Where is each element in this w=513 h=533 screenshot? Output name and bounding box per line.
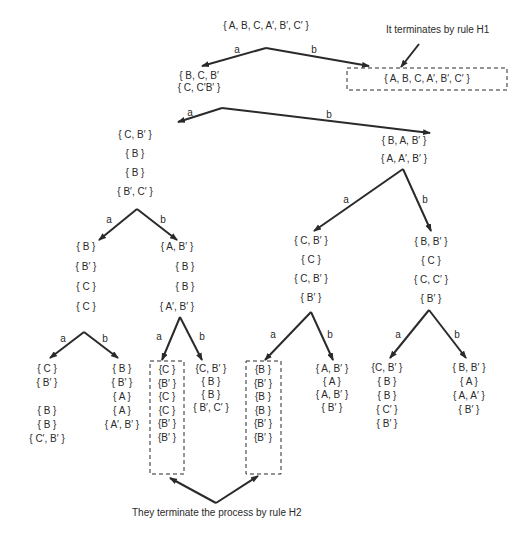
state-set: {B′ } [158,418,176,430]
node-abaa-terminal: {B } {B′ } {B } {B } {B′ } {B′ } [254,364,272,443]
state-set: { C′ } [372,404,403,416]
node-aaaa: { C } { B′ } { B } { B } { C′, B′ } [29,363,64,445]
state-set: { C, C′ } [414,274,448,286]
node-ab: { B, A, B′ } { A, A′, B′ } [381,135,427,165]
state-set: { C } [76,281,97,293]
state-set: { A, A′, B′ } [381,153,427,165]
node-aaba-terminal: {C } {B′ } {C } {C } {B′ } {B′ } [158,364,176,443]
node-aa: { C, B′ } { B } { B } { B′, C′ } [117,129,152,198]
edge-label-a: a [60,334,66,344]
edge-label-a: a [156,332,162,342]
state-set: {C, B′ } [193,363,228,375]
state-set: { C } [414,255,448,267]
state-set: { A } [316,376,348,388]
edge-label-b: b [102,334,108,344]
edge-label-b: b [199,332,205,342]
state-set: { A } [105,391,139,403]
edge-label-b: b [311,45,317,55]
edge-label-a: a [343,195,349,205]
h1-annotation: It terminates by rule H1 [386,24,489,35]
state-set: {C } [158,391,176,403]
state-set: { A′, B′ } [160,301,194,313]
node-aaa: { B } { B′ } { C } { C } [76,241,97,313]
state-set: { C, B′ } [294,273,328,285]
node-root-b-terminal: { A, B, C, A′, B′, C′ } [384,73,470,85]
node-abba: {C, B′ } { B } { B } { C′ } { B′ } [372,362,403,430]
node-abbb: { B, B′ } { A } { A, A′ } { B′ } [452,362,485,416]
state-set: {B′ } [158,378,176,390]
state-set: { A, B′ } [316,389,348,401]
state-set: { B′ } [452,404,485,416]
state-set: {B } [254,405,272,417]
state-set: {B′ } [254,432,272,444]
edge-label-a: a [395,330,401,340]
state-set: { A } [105,405,139,417]
state-set: { B } [193,376,228,388]
state-set: { C } [294,254,328,266]
state-set: { B′ } [29,377,64,389]
state-set: { C, B′ } [117,129,152,141]
edge-label-b: b [160,215,166,225]
state-set: {C, B′ } [372,362,403,374]
edge-label-a: a [234,45,240,55]
state-set: { B′ } [372,418,403,430]
state-set: { B′ } [105,377,139,389]
state-set: { C′, B′ } [29,433,64,445]
edge-label-a: a [106,215,112,225]
state-set: { B } [168,281,202,293]
state-set: {B′ } [158,432,176,444]
edge-label-b: b [454,330,460,340]
state-set: { C, B′ } [294,235,328,247]
state-set: { B } [76,241,97,253]
edge-label-b: b [327,330,333,340]
state-set: { C, C′B′ } [178,82,221,94]
state-set: { A′, B′ } [105,419,139,431]
edge-label-a: a [270,330,276,340]
state-set: { A, B′ } [160,241,194,253]
node-root: { A, B, C, A′, B′, C′ } [223,20,309,32]
state-set: {B } [254,364,272,376]
state-set: { B, C, B′ [178,70,221,82]
edge-label-b: b [422,195,428,205]
state-set: { B, B′ } [414,236,448,248]
state-set: { C } [29,363,64,375]
state-set: { B′ } [76,261,97,273]
state-set: { C } [76,301,97,313]
node-abb: { B, B′ } { C } { C, C′ } { B′ } [414,236,448,305]
state-set: { B′, C′ } [117,186,152,198]
state-set: { A, A′ } [452,390,485,402]
state-set: {B } [254,391,272,403]
state-set: {C } [158,405,176,417]
state-set: { B′ } [414,293,448,305]
state-set: { A, B′ } [316,363,348,375]
state-set: {C } [158,364,176,376]
node-aaab: { B } { B′ } { A } { A } { A′, B′ } [105,363,139,431]
state-set: { B } [29,419,64,431]
state-set: {B′ } [254,378,272,390]
node-aba: { C, B′ } { C } { C, B′ } { B′ } [294,235,328,304]
node-abab: { A, B′ } { A } { A, B′ } { B′ } [316,363,348,414]
state-set: { B } [372,376,403,388]
state-set: { B } [193,389,228,401]
state-set: { B } [117,167,152,179]
state-set: { B } [372,390,403,402]
h2-annotation: They terminate the process by rule H2 [132,507,302,518]
edge-label-a: a [187,108,193,118]
state-set: { B } [105,363,139,375]
state-set: { B } [168,261,202,273]
state-set: { B′ } [316,402,348,414]
state-set: { A } [452,376,485,388]
search-tree-diagram: It terminates by rule H1 They terminate … [0,0,513,533]
state-set: { A, B, C, A′, B′, C′ } [384,73,470,85]
node-a: { B, C, B′ { C, C′B′ } [178,70,221,94]
state-set: { B, A, B′ } [381,135,427,147]
node-aab: { A, B′ } { B } { B } { A′, B′ } [160,241,194,313]
edge-label-b: b [326,110,332,120]
state-set: { B′, C′ } [193,402,228,414]
state-set: { B } [117,148,152,160]
state-set: { B } [29,405,64,417]
node-aabb: {C, B′ } { B } { B } { B′, C′ } [193,363,228,414]
state-set: { B′ } [294,292,328,304]
state-set: { B, B′ } [452,362,485,374]
state-set: { A, B, C, A′, B′, C′ } [223,20,309,32]
